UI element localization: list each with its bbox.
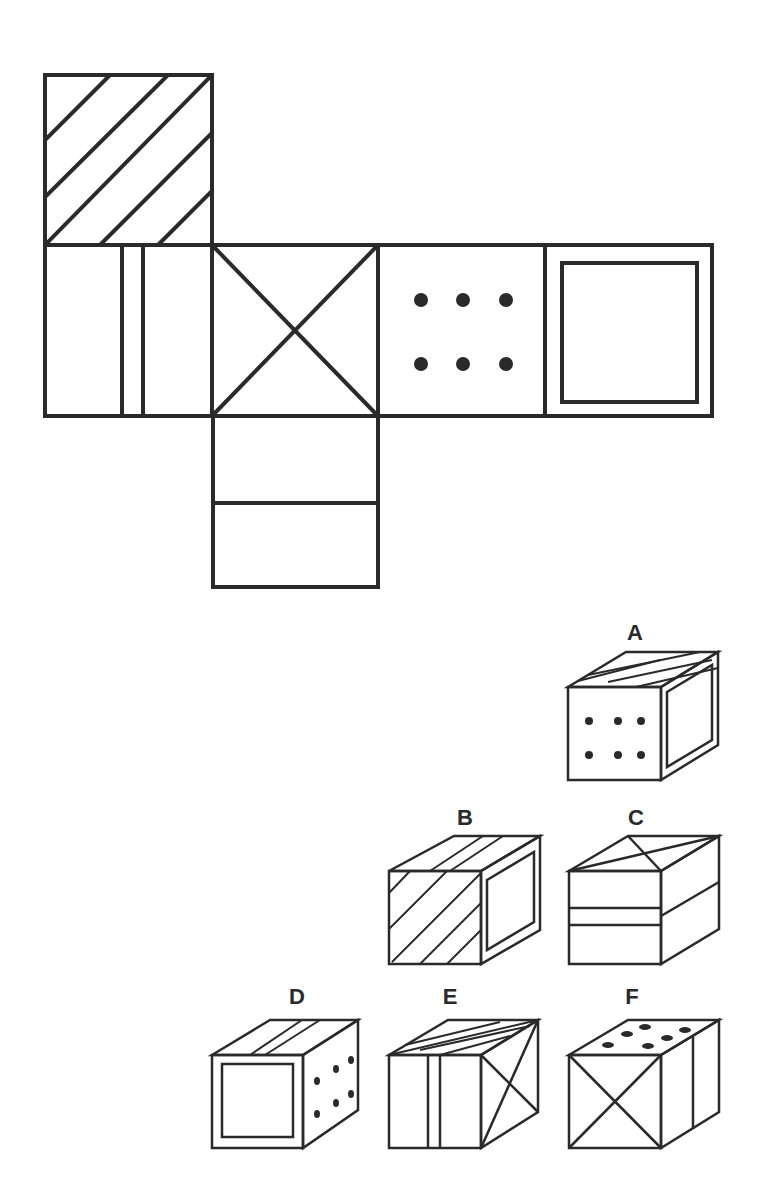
net-face-horizontal-line: [213, 416, 378, 587]
option-e[interactable]: E: [389, 984, 538, 1148]
option-e-label: E: [443, 984, 458, 1009]
net-face-double-vertical-line: [45, 245, 212, 416]
net-face-diagonal-stripes: [45, 75, 212, 245]
option-f-label: F: [625, 984, 638, 1009]
option-a-label: A: [627, 620, 643, 645]
option-d[interactable]: D: [212, 984, 358, 1148]
option-c[interactable]: C: [569, 805, 719, 964]
option-c-label: C: [628, 805, 644, 830]
option-d-label: D: [289, 984, 305, 1009]
net-face-inner-square: [545, 245, 712, 416]
option-b[interactable]: B: [389, 805, 540, 964]
option-b-label: B: [457, 805, 473, 830]
net-face-six-dots: [378, 245, 545, 416]
net-face-x-cross: [212, 245, 378, 416]
cube-net: [45, 75, 712, 587]
cube-net-puzzle: A B: [0, 0, 763, 1204]
option-a[interactable]: A: [568, 620, 718, 780]
option-f[interactable]: F: [569, 984, 719, 1148]
